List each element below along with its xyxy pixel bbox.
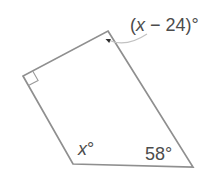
- angle-label-top: (x − 24)°: [130, 15, 199, 35]
- geometry-figure: (x − 24)° x° 58°: [0, 0, 204, 176]
- label-leader-line: [108, 34, 147, 43]
- angle-label-bottom-right: 58°: [145, 144, 172, 164]
- quadrilateral-diagram: (x − 24)° x° 58°: [0, 0, 204, 176]
- angle-label-top-rest: − 24)°: [145, 15, 199, 35]
- angle-label-bottom-left-degree: °: [87, 139, 94, 159]
- angle-label-bottom-left: x°: [77, 139, 94, 159]
